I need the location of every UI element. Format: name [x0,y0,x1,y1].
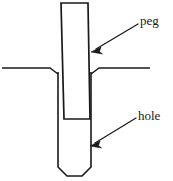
surface-line-right [91,68,150,74]
peg-label: peg [140,14,159,27]
surface-line-left [2,68,58,74]
peg-and-hole-diagram: peg hole [0,0,173,181]
peg-callout-arrow-icon [91,24,138,54]
hole-label: hole [138,109,160,122]
hole-callout-arrow-icon [90,118,136,148]
peg-outline [61,3,90,119]
